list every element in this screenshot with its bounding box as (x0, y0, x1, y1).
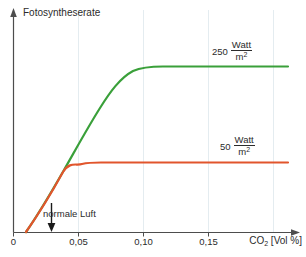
series-250-unit: Watt m2 (231, 40, 252, 62)
xtick-label-1: 0,05 (69, 236, 88, 247)
y-axis-title: Fotosyntheserate (23, 7, 100, 18)
series-label-50-watt: 50 Watt m2 (220, 135, 255, 157)
xtick-label-2: 0,10 (134, 236, 153, 247)
series-250-unit-numerator: Watt (231, 40, 252, 51)
curve-50-watt (26, 163, 288, 233)
normal-air-annotation-label: normale Luft (43, 208, 96, 219)
xtick-label-0: 0 (11, 236, 16, 247)
x-axis-title-unit: [Vol %] (271, 235, 302, 246)
chart-root: Fotosyntheserate CO2 [Vol %] 0 0,05 0,10… (0, 0, 306, 257)
series-50-value: 50 (220, 141, 231, 152)
series-50-unit-denominator: m2 (234, 146, 255, 157)
series-label-250-watt: 250 Watt m2 (212, 40, 252, 62)
series-250-unit-denominator: m2 (231, 51, 252, 62)
y-axis (10, 8, 17, 233)
series-50-unit-numerator: Watt (234, 135, 255, 146)
normal-air-arrow-head (48, 223, 56, 232)
xtick-label-3: 0,15 (199, 236, 218, 247)
x-axis-title-base: CO (249, 235, 264, 246)
series-250-value: 250 (212, 46, 228, 57)
series-50-unit: Watt m2 (234, 135, 255, 157)
x-axis-title-subscript: 2 (264, 240, 268, 247)
x-axis-title: CO2 [Vol %] (249, 235, 302, 247)
y-axis-arrowhead (10, 8, 17, 17)
